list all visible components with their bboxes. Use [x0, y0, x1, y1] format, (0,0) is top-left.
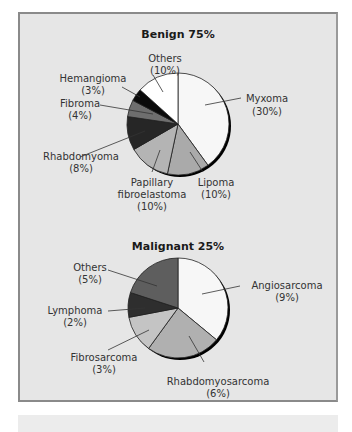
malignant-label-fibrosarcoma: Fibrosarcoma — [71, 352, 138, 363]
svg-text:(30%): (30%) — [252, 106, 282, 117]
benign-label-papillary-fibroelastoma: Papillary — [131, 177, 174, 188]
svg-text:(10%): (10%) — [137, 201, 167, 212]
svg-text:(5%): (5%) — [78, 274, 102, 285]
svg-text:(3%): (3%) — [92, 364, 116, 375]
svg-text:(8%): (8%) — [69, 163, 93, 174]
benign-pie-chart: Benign 75% Others (10%) Hemangioma (3%) … — [43, 28, 288, 212]
malignant-label-others: Others — [73, 262, 107, 273]
malignant-label-rhabdomyosarcoma: Rhabdomyosarcoma — [167, 376, 270, 387]
malignant-label-lymphoma: Lymphoma — [48, 305, 103, 316]
svg-text:(6%): (6%) — [206, 388, 230, 399]
malignant-title: Malignant 25% — [132, 240, 224, 253]
benign-title: Benign 75% — [141, 28, 214, 41]
svg-text:(4%): (4%) — [68, 110, 92, 121]
svg-text:fibroelastoma: fibroelastoma — [118, 189, 187, 200]
benign-label-others: Others — [148, 53, 182, 64]
svg-text:(10%): (10%) — [150, 65, 180, 76]
benign-label-hemangioma: Hemangioma — [60, 73, 127, 84]
malignant-label-angiosarcoma: Angiosarcoma — [251, 280, 322, 291]
svg-text:(2%): (2%) — [63, 317, 87, 328]
pie-charts: Benign 75% Others (10%) Hemangioma (3%) … — [0, 0, 352, 432]
svg-text:(10%): (10%) — [201, 189, 231, 200]
benign-label-myxoma: Myxoma — [246, 93, 288, 104]
benign-label-rhabdomyoma: Rhabdomyoma — [43, 151, 119, 162]
benign-slices — [127, 73, 229, 175]
svg-text:(3%): (3%) — [81, 85, 105, 96]
malignant-pie-chart: Malignant 25% Others (5%) Lymphoma (2%) … — [48, 240, 323, 399]
svg-text:(9%): (9%) — [275, 292, 299, 303]
benign-label-lipoma: Lipoma — [198, 177, 235, 188]
benign-label-fibroma: Fibroma — [60, 98, 100, 109]
